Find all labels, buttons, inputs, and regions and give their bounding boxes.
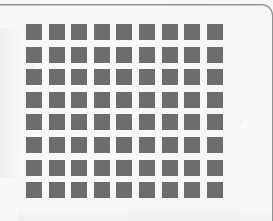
- grid-square: [49, 47, 65, 63]
- grid-square: [26, 182, 42, 198]
- grid-square: [71, 160, 87, 176]
- grid-square: [26, 69, 42, 85]
- grid-square: [94, 69, 110, 85]
- grid-square: [162, 24, 178, 40]
- grid-square: [184, 160, 200, 176]
- grid-square: [184, 114, 200, 130]
- grid-square: [49, 114, 65, 130]
- grid-square: [94, 114, 110, 130]
- grid-square: [116, 47, 132, 63]
- grid-square: [94, 160, 110, 176]
- grid-square: [162, 137, 178, 153]
- grid-square: [94, 92, 110, 108]
- grid-square: [71, 114, 87, 130]
- grid-square: [207, 137, 223, 153]
- grid-square: [139, 69, 155, 85]
- grid-square: [139, 160, 155, 176]
- grid-square: [49, 69, 65, 85]
- grid-square: [26, 137, 42, 153]
- grid-square: [162, 160, 178, 176]
- grid-square: [71, 92, 87, 108]
- grid-square: [71, 137, 87, 153]
- grid-square: [71, 24, 87, 40]
- grid-square: [94, 137, 110, 153]
- grid-square: [116, 182, 132, 198]
- scanned-page: [0, 0, 273, 221]
- grid-square: [26, 114, 42, 130]
- grid-square: [116, 114, 132, 130]
- grid-square: [139, 92, 155, 108]
- grid-square: [71, 69, 87, 85]
- grid-square: [184, 137, 200, 153]
- grid-square: [207, 114, 223, 130]
- grid-square: [71, 47, 87, 63]
- grid-square: [49, 24, 65, 40]
- paper-smudge-left: [0, 28, 22, 178]
- grid-square: [139, 182, 155, 198]
- grid-square: [162, 182, 178, 198]
- grid-square: [49, 92, 65, 108]
- grid-square: [116, 160, 132, 176]
- grid-square: [162, 114, 178, 130]
- grid-square: [116, 137, 132, 153]
- grid-square: [26, 24, 42, 40]
- grid-square: [207, 47, 223, 63]
- grid-square: [184, 182, 200, 198]
- grid-square: [26, 160, 42, 176]
- grid-square: [26, 92, 42, 108]
- square-grid: [26, 24, 223, 198]
- grid-square: [162, 69, 178, 85]
- grid-square: [184, 92, 200, 108]
- grid-square: [207, 92, 223, 108]
- grid-square: [94, 182, 110, 198]
- grid-square: [116, 69, 132, 85]
- grid-square: [207, 24, 223, 40]
- grid-square: [184, 24, 200, 40]
- grid-square: [26, 47, 42, 63]
- grid-square: [207, 160, 223, 176]
- grid-square: [49, 182, 65, 198]
- grid-square: [139, 114, 155, 130]
- grid-square: [116, 92, 132, 108]
- grid-square: [139, 24, 155, 40]
- grid-square: [207, 182, 223, 198]
- grid-square: [49, 160, 65, 176]
- grid-square: [162, 47, 178, 63]
- grid-square: [116, 24, 132, 40]
- grid-square: [49, 137, 65, 153]
- grid-square: [94, 47, 110, 63]
- grid-square: [184, 47, 200, 63]
- grid-square: [162, 92, 178, 108]
- grid-square: [139, 47, 155, 63]
- grid-square: [139, 137, 155, 153]
- paper-smudge-bottom: [18, 207, 273, 221]
- grid-square: [71, 182, 87, 198]
- grid-square: [184, 69, 200, 85]
- grid-square: [94, 24, 110, 40]
- grid-square: [207, 69, 223, 85]
